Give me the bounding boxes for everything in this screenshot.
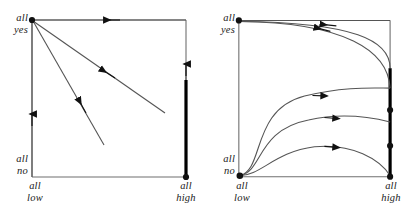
fixed-point-bottom-left — [237, 172, 244, 179]
panel-left: all yes all no all low all high — [0, 0, 205, 223]
axis-label-x-left: all low — [18, 180, 52, 203]
fixed-point-edge-upper — [387, 107, 393, 113]
trajectory-inner-curve-to-top-left — [240, 21, 390, 88]
trajectory-curve-from-origin-lower — [240, 146, 390, 175]
axis-label-x-left: all low — [225, 180, 259, 203]
fixed-point-bottom-right — [387, 174, 393, 180]
fixed-point-top-left — [236, 17, 242, 23]
axis-label-x-right: all high — [373, 180, 409, 203]
trajectory-curve-from-origin-middle — [240, 116, 390, 176]
axis-label-y-bottom: all no — [205, 153, 235, 176]
trajectory-curve-from-origin-upper — [240, 88, 390, 176]
axis-label-x-right: all high — [168, 180, 204, 203]
fixed-point-top-left — [29, 17, 35, 23]
figure-root: all yes all no all low all high — [0, 0, 411, 223]
trajectory-interior-flow-shallow — [33, 21, 165, 113]
plot-frame — [32, 20, 186, 177]
panel-right: all yes all no all low all high — [205, 0, 410, 223]
axis-label-y-bottom: all no — [0, 153, 28, 176]
axis-label-y-top: all yes — [205, 12, 235, 35]
fixed-point-edge-lower — [387, 143, 393, 149]
axis-label-y-top: all yes — [0, 12, 28, 35]
trajectory-interior-flow-steep — [33, 21, 104, 145]
